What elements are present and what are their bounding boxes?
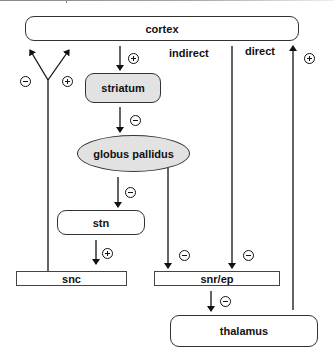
minus-sign-icon bbox=[125, 187, 136, 198]
node-striatum-label: striatum bbox=[101, 82, 144, 94]
minus-sign-icon bbox=[179, 250, 190, 261]
plus-sign-icon bbox=[128, 53, 139, 64]
minus-sign-icon bbox=[243, 250, 254, 261]
minus-sign-icon bbox=[130, 115, 141, 126]
minus-sign-icon bbox=[220, 296, 231, 307]
node-stn: stn bbox=[57, 210, 145, 235]
node-snc-label: snc bbox=[62, 273, 81, 285]
label-direct: direct bbox=[245, 45, 275, 57]
node-stn-label: stn bbox=[93, 217, 110, 229]
node-striatum: striatum bbox=[85, 73, 161, 103]
plus-sign-icon bbox=[62, 76, 73, 87]
node-cortex-label: cortex bbox=[145, 23, 178, 35]
node-thalamus: thalamus bbox=[170, 315, 318, 347]
plus-sign-icon bbox=[304, 53, 315, 64]
minus-sign-icon bbox=[20, 76, 31, 87]
node-snr-ep-label: snr/ep bbox=[200, 273, 233, 285]
edge-snc-branch-left bbox=[30, 50, 48, 80]
node-cortex: cortex bbox=[25, 16, 299, 41]
node-thalamus-label: thalamus bbox=[220, 325, 268, 337]
plus-sign-icon bbox=[102, 248, 113, 259]
label-indirect: indirect bbox=[169, 47, 209, 59]
node-snc: snc bbox=[16, 271, 127, 286]
node-globus-pallidus: globus pallidus bbox=[77, 135, 190, 172]
node-snr-ep: snr/ep bbox=[154, 271, 280, 286]
node-globus-pallidus-label: globus pallidus bbox=[93, 148, 174, 160]
connector-layer bbox=[0, 0, 334, 362]
